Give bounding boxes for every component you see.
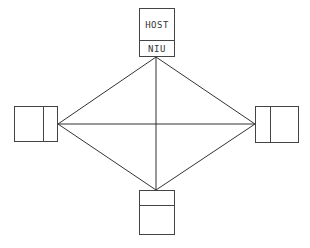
mesh-network-diagram: HOST NIU	[0, 0, 310, 248]
node-right-niu-cell	[256, 107, 271, 142]
node-left	[14, 106, 58, 142]
host-cell: HOST	[140, 9, 174, 41]
node-bottom-niu-cell	[140, 191, 174, 206]
node-left-niu-cell	[44, 107, 57, 141]
link-top-right	[156, 57, 255, 124]
node-host: HOST NIU	[139, 8, 175, 57]
node-bottom-host-cell	[140, 206, 174, 234]
niu-cell: NIU	[140, 41, 174, 56]
node-right	[255, 106, 299, 143]
node-bottom	[139, 190, 175, 235]
node-left-host-cell	[15, 107, 44, 141]
node-right-host-cell	[271, 107, 298, 142]
link-right-bottom	[156, 124, 255, 190]
niu-label: NIU	[148, 44, 166, 54]
host-label: HOST	[145, 20, 169, 30]
link-top-left	[58, 57, 156, 124]
link-left-bottom	[58, 124, 156, 190]
